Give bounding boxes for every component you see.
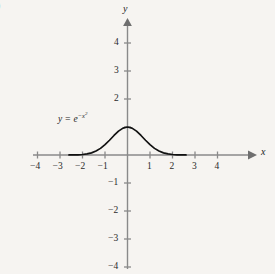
y-tick-label-3: 3 (114, 66, 119, 76)
curve-equation-exponent-base: −x (78, 112, 85, 119)
x-tick-label--2: −2 (75, 162, 86, 172)
x-axis-arrowhead (248, 151, 257, 160)
y-tick-label--4: −4 (108, 262, 119, 272)
y-axis-label: y (123, 4, 127, 14)
curve-equation-label: y = e−x2 (58, 114, 87, 125)
x-tick-label--4: −4 (30, 162, 41, 172)
y-tick-label-2: 2 (114, 94, 119, 104)
x-tick-label-2: 2 (170, 162, 175, 172)
x-tick-label--3: −3 (53, 162, 64, 172)
curve-equation-exponent-power: 2 (85, 111, 88, 116)
y-tick-label--2: −2 (108, 206, 119, 216)
curve-equation-lhs: y = e (58, 114, 78, 124)
x-tick-label-3: 3 (192, 162, 197, 172)
curve-equation-exponent: −x2 (78, 112, 88, 119)
x-tick-label--1: −1 (98, 162, 109, 172)
x-axis-label: x (261, 147, 265, 157)
x-tick-label-1: 1 (147, 162, 152, 172)
x-tick-label-4: 4 (215, 162, 220, 172)
coordinate-plane-svg (0, 0, 275, 274)
y-axis-arrowhead (123, 18, 132, 26)
y-tick-label--1: −1 (108, 178, 119, 188)
y-tick-label--3: −3 (108, 234, 119, 244)
figure-container: ) (0, 0, 275, 274)
y-tick-label-4: 4 (114, 38, 119, 48)
